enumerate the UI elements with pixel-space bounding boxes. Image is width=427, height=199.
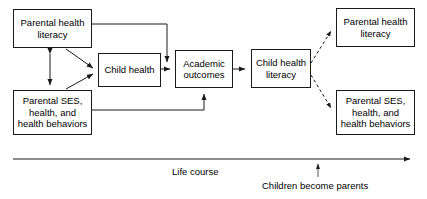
node-parental-health-literacy-left: Parental health literacy	[13, 9, 92, 48]
node-child-health: Child health	[98, 53, 161, 87]
node-label: Academic outcomes	[181, 58, 227, 81]
diagram-canvas: Parental health literacy Parental SES, h…	[0, 0, 427, 199]
edge-child-literacy-to-ses-right	[311, 75, 331, 108]
node-child-health-literacy: Child health literacy	[251, 49, 311, 88]
node-label: Child health	[102, 64, 156, 76]
edge-child-literacy-to-phl-right	[311, 31, 331, 63]
node-label: Parental SES, health, and health behavio…	[16, 95, 90, 130]
node-label: Child health literacy	[254, 57, 308, 80]
node-parental-health-literacy-right: Parental health literacy	[336, 8, 415, 47]
node-parental-ses-left: Parental SES, health, and health behavio…	[13, 90, 92, 135]
node-label: Parental health literacy	[19, 17, 87, 40]
node-academic-outcomes: Academic outcomes	[175, 50, 233, 88]
node-label: Parental health literacy	[342, 16, 410, 39]
node-label: Parental SES, health, and health behavio…	[339, 95, 413, 130]
life-course-label: Life course	[172, 166, 218, 177]
children-become-parents-label: Children become parents	[262, 180, 368, 191]
edge-ses-to-academic	[92, 94, 204, 110]
node-parental-ses-right: Parental SES, health, and health behavio…	[336, 90, 415, 135]
edge-ses-to-child-health	[66, 74, 93, 89]
edge-phl-to-child-health	[66, 49, 93, 68]
